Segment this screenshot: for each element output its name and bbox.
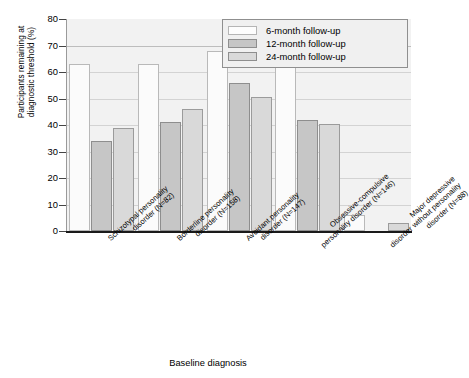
y-tick-mark-60 — [59, 72, 66, 73]
y-tick-label-50: 50 — [18, 94, 58, 103]
y-tick-label-60: 60 — [18, 67, 58, 76]
y-tick-label-20: 20 — [18, 173, 58, 182]
y-tick-mark-70 — [59, 46, 66, 47]
legend-item-12-month[interactable]: 12-month follow-up — [228, 37, 402, 50]
y-tick-label-30: 30 — [18, 147, 58, 156]
bar-12month-group-1 — [91, 141, 112, 231]
legend-item-24-month[interactable]: 24-month follow-up — [228, 50, 402, 63]
bar-12month-group-4 — [297, 120, 318, 231]
legend-label-24-month: 24-month follow-up — [266, 52, 346, 62]
y-tick-mark-40 — [59, 125, 66, 126]
y-tick-mark-20 — [59, 178, 66, 179]
y-tick-mark-80 — [59, 19, 66, 20]
y-tick-label-80: 80 — [18, 14, 58, 23]
y-tick-mark-10 — [59, 205, 66, 206]
y-tick-mark-30 — [59, 152, 66, 153]
legend-swatch-icon-12-month — [228, 39, 257, 48]
bar-24month-group-3 — [251, 97, 272, 231]
y-tick-label-10: 10 — [18, 200, 58, 209]
y-tick-label-40: 40 — [18, 120, 58, 129]
y-axis-title-line2: diagnostic threshold (%) — [27, 0, 37, 157]
legend: 6-month follow-up 12-month follow-up 24-… — [222, 19, 408, 68]
x-axis-title: Baseline diagnosis — [0, 358, 416, 368]
bar-6month-group-1 — [69, 64, 90, 231]
bar-12month-group-2 — [160, 122, 181, 231]
y-tick-label-70: 70 — [18, 41, 58, 50]
y-axis-title: Participants remaining at diagnostic thr… — [17, 0, 37, 157]
legend-swatch-icon-6-month — [228, 26, 257, 35]
legend-label-12-month: 12-month follow-up — [266, 39, 346, 49]
y-tick-mark-50 — [59, 99, 66, 100]
y-axis-title-line1: Participants remaining at — [17, 0, 27, 157]
legend-item-6-month[interactable]: 6-month follow-up — [228, 24, 402, 37]
y-tick-mark-0 — [59, 231, 66, 232]
gridline-60 — [67, 72, 411, 73]
legend-label-6-month: 6-month follow-up — [266, 26, 341, 36]
y-tick-label-0: 0 — [18, 226, 58, 235]
legend-swatch-icon-24-month — [228, 52, 257, 61]
